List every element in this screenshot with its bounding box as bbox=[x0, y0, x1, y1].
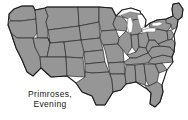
caption-line-1: Primroses, bbox=[18, 89, 82, 99]
state-florida bbox=[145, 82, 163, 107]
lake-erie bbox=[142, 28, 156, 33]
state-nebraska bbox=[81, 38, 103, 52]
state-arkansas bbox=[108, 62, 125, 74]
map-figure: Primroses, Evening bbox=[0, 0, 188, 120]
state-new-mexico bbox=[66, 57, 85, 77]
caption-block: Primroses, Evening bbox=[18, 89, 82, 109]
state-iowa bbox=[100, 30, 119, 45]
state-kansas bbox=[84, 50, 105, 64]
state-colorado bbox=[64, 40, 84, 58]
state-mississippi bbox=[125, 65, 136, 84]
state-oklahoma bbox=[85, 62, 109, 73]
state-washington bbox=[9, 6, 36, 21]
caption-line-2: Evening bbox=[18, 99, 82, 109]
state-new-jersey bbox=[167, 30, 174, 40]
state-arizona bbox=[40, 57, 67, 77]
